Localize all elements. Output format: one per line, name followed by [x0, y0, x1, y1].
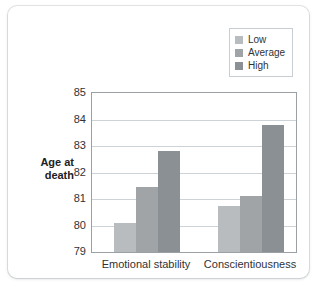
- bar: [158, 151, 180, 252]
- y-axis-tick-label: 85: [58, 87, 86, 97]
- bar: [262, 125, 284, 252]
- y-axis-tick-label: 79: [58, 246, 86, 256]
- legend-label-high: High: [248, 59, 269, 72]
- bar: [240, 196, 262, 252]
- y-axis-tick-label: 81: [58, 193, 86, 203]
- legend-label-low: Low: [248, 33, 266, 46]
- legend-item-high: High: [235, 59, 285, 72]
- bar: [218, 206, 240, 252]
- y-axis-tick-label: 83: [58, 140, 86, 150]
- legend-item-average: Average: [235, 46, 285, 59]
- bar-group: [218, 93, 284, 252]
- legend-swatch-low: [235, 36, 243, 44]
- chart-legend: Low Average High: [229, 28, 293, 77]
- plot-area: [91, 92, 297, 253]
- x-axis-tick-1: Conscientiousness: [180, 258, 317, 270]
- y-axis-tick-label: 80: [58, 220, 86, 230]
- y-axis-tick-label: 82: [58, 167, 86, 177]
- y-axis-ticks: 85848382818079: [56, 92, 86, 253]
- bar: [136, 187, 158, 252]
- legend-swatch-average: [235, 49, 243, 57]
- bar-group: [114, 93, 180, 252]
- legend-label-average: Average: [248, 46, 285, 59]
- bar: [114, 223, 136, 252]
- legend-swatch-high: [235, 62, 243, 70]
- figure-card: Low Average High Age at death 8584838281…: [8, 6, 309, 278]
- y-axis-tick-label: 84: [58, 114, 86, 124]
- legend-item-low: Low: [235, 33, 285, 46]
